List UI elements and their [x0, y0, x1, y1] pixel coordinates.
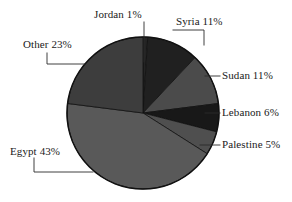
pie-label-sudan: Sudan 11%	[222, 70, 273, 81]
leader-line-syria	[173, 30, 204, 45]
pie-chart-canvas	[0, 0, 292, 202]
pie-label-other: Other 23%	[23, 39, 72, 50]
leader-line-other	[47, 53, 85, 64]
pie-label-syria: Syria 11%	[176, 16, 223, 27]
pie-label-palestine: Palestine 5%	[222, 139, 280, 150]
pie-slice-other	[68, 37, 143, 113]
pie-chart: Jordan 1% Syria 11% Sudan 11% Lebanon 6%…	[0, 0, 292, 202]
pie-label-lebanon: Lebanon 6%	[222, 107, 279, 118]
pie-label-egypt: Egypt 43%	[10, 146, 60, 157]
pie-label-jordan: Jordan 1%	[94, 9, 142, 20]
